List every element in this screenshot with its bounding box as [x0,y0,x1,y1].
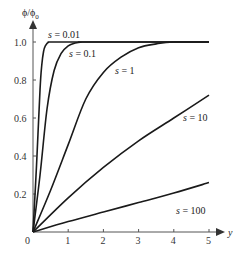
x-tick-label: 2 [100,235,105,246]
y-axis-label-main: ϕ/ϕ [22,7,35,18]
curve-label: s = 0.01 [48,29,80,40]
curve-label: s = 1 [115,65,135,76]
chart: y ϕ/ϕ0 012345 0.20.40.60.81.0 s = 0.01s … [0,0,235,257]
x-tick-label: 5 [206,235,211,246]
y-tick-label: 0.8 [14,75,27,86]
x-tick-label: 0 [25,235,30,246]
y-axis-label: ϕ/ϕ0 [22,7,39,21]
y-axis-arrow-icon [29,20,37,29]
y-tick-label: 1.0 [14,37,27,48]
x-tick-label: 3 [136,235,141,246]
curve-label: s = 10 [183,112,208,123]
x-tick-label: 4 [171,235,176,246]
curve-label: s = 100 [176,205,206,216]
y-axis-label-sub: 0 [35,13,39,21]
curve-labels: s = 0.01s = 0.1s = 1s = 10s = 100 [48,29,208,216]
x-tick-label: 1 [65,235,70,246]
curve-label: s = 0.1 [69,48,96,59]
x-axis-label: y [227,227,233,238]
y-tick-label: 0.2 [14,189,27,200]
y-tick-label: 0.6 [14,113,27,124]
x-axis-arrow-icon [216,228,225,236]
y-tick-label: 0.4 [14,151,27,162]
